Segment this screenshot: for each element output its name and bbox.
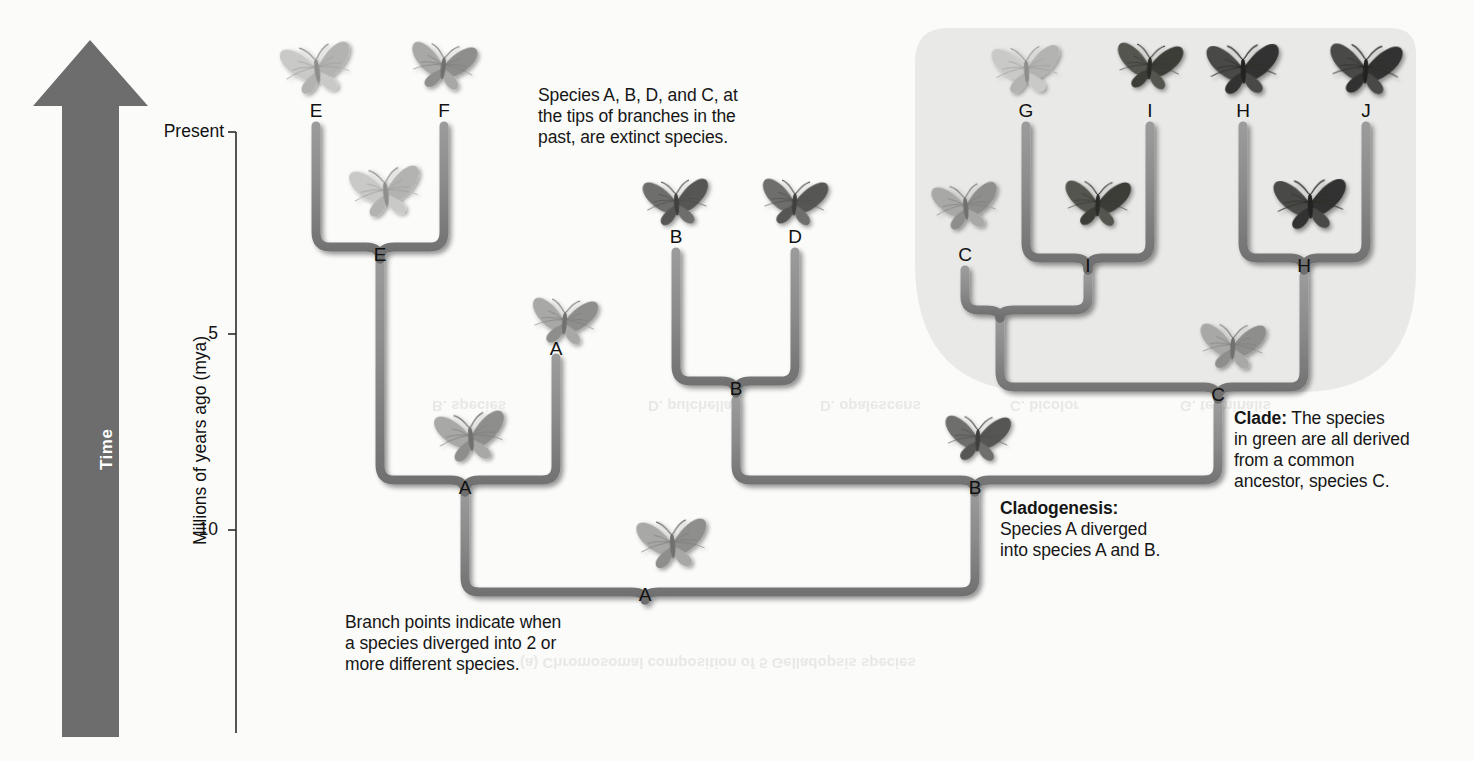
clade-highlight-shape <box>915 28 1416 392</box>
y-axis <box>228 132 236 733</box>
annotation-branch-points: Branch points indicate when a species di… <box>345 612 675 675</box>
tip-G-label: G <box>1013 100 1039 122</box>
tip-D-label: D <box>782 226 808 248</box>
annotation-branch-points-text: Branch points indicate when a species di… <box>345 612 561 674</box>
tip-A-label: A <box>543 338 569 360</box>
node-A-root-label: A <box>632 584 658 606</box>
node-I-label: I <box>1075 255 1101 277</box>
butterfly-F-tip-icon <box>408 41 478 92</box>
annotation-clade-lead: Clade: <box>1234 408 1287 428</box>
annotation-extinct-text: Species A, B, D, and C, at the tips of b… <box>538 85 738 147</box>
branch-Bright-to-Bmid <box>736 400 975 492</box>
annotation-clade: Clade: The species in green are all deri… <box>1234 408 1474 492</box>
butterfly-E-node-icon <box>348 165 423 219</box>
tip-E-label: E <box>303 100 329 122</box>
annotation-cladogenesis-lead: Cladogenesis: <box>1000 498 1118 518</box>
tip-F-label: F <box>431 100 457 122</box>
branch-A-to-E <box>380 257 465 492</box>
annotation-cladogenesis: Cladogenesis: Species A diverged into sp… <box>1000 498 1260 561</box>
node-E-label: E <box>367 244 393 266</box>
node-C-label: C <box>1205 384 1231 406</box>
y-axis-title: Millions of years ago (mya) <box>190 336 211 545</box>
butterfly-A-root-icon <box>636 518 709 570</box>
branch-Bmid-to-tipD <box>736 252 795 393</box>
tick-label-5: 5 <box>168 323 218 344</box>
time-arrow <box>33 40 148 737</box>
butterfly-B-node-icon <box>944 415 1011 461</box>
tip-C-label: C <box>952 244 978 266</box>
branch-root-fork <box>465 490 645 600</box>
branch-Bright-to-C <box>975 405 1218 492</box>
figure-canvas: B. speciesD. pulchellaD. opalescensC. bi… <box>0 0 1474 761</box>
branch-Bmid-to-tipB <box>676 252 736 393</box>
tip-J-label: J <box>1353 100 1379 122</box>
time-arrow-label: Time <box>97 429 117 470</box>
butterfly-E-tip-icon <box>279 41 355 97</box>
annotation-cladogenesis-text: Species A diverged into species A and B. <box>1000 519 1160 560</box>
node-A-left-label: A <box>452 477 478 499</box>
butterfly-D-tip-icon <box>760 178 829 226</box>
annotation-extinct-species: Species A, B, D, and C, at the tips of b… <box>538 85 838 148</box>
node-B-mid-label: B <box>723 378 749 400</box>
tip-H-label: H <box>1230 100 1256 122</box>
node-H-label: H <box>1291 255 1317 277</box>
butterfly-A-node-icon <box>433 410 508 464</box>
tick-label-present: Present <box>118 121 224 142</box>
butterfly-B-tip-icon <box>642 178 711 226</box>
tip-I-label: I <box>1137 100 1163 122</box>
tip-B-label: B <box>663 226 689 248</box>
node-B-right-label: B <box>962 477 988 499</box>
tick-label-10: 10 <box>158 519 218 540</box>
